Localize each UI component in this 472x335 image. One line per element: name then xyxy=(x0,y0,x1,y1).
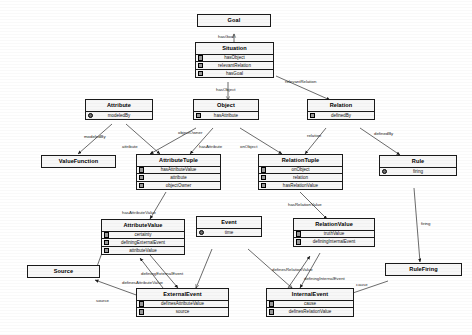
class-box-externalevent[interactable]: ExternalEvent definesAttributeValue sour… xyxy=(136,288,229,317)
attribute-list: modeledBy xyxy=(86,111,152,120)
class-title: Source xyxy=(28,266,99,277)
visibility-icon xyxy=(196,71,205,76)
edge-label-hasattribute: hasAttribute xyxy=(199,145,222,149)
class-box-internalevent[interactable]: InternalEvent cause definesRelationValue xyxy=(266,288,354,317)
visibility-icon xyxy=(102,240,111,245)
attribute-row: truthValue xyxy=(294,231,374,239)
class-box-attributevalue[interactable]: AttributeValue certainty definingExterna… xyxy=(101,219,185,255)
attribute-list: firing xyxy=(380,167,456,176)
visibility-icon xyxy=(137,309,146,314)
edge-label-definingexternalevent: definingExternalEvent xyxy=(141,272,183,276)
class-box-goal[interactable]: Goal xyxy=(197,14,271,27)
edge-label-hasobject: hasObject xyxy=(216,88,236,92)
attribute-row: objectOwner xyxy=(137,182,220,190)
visibility-icon xyxy=(137,167,146,172)
attribute-row: hasAttribute xyxy=(194,112,258,120)
edge-label-defininginternalevent: definingInternalEvent xyxy=(304,277,345,281)
visibility-icon xyxy=(194,113,203,118)
visibility-icon xyxy=(196,63,205,68)
class-box-relationtuple[interactable]: RelationTuple onObject relation hasRelat… xyxy=(258,154,343,190)
visibility-icon xyxy=(267,309,276,314)
edge-label-relevantrelation: relevantRelation xyxy=(285,80,316,84)
class-box-valuefunction[interactable]: ValueFunction xyxy=(41,155,116,168)
attribute-row: attribute xyxy=(137,174,220,182)
class-box-relationvalue[interactable]: RelationValue truthValue definingInterna… xyxy=(293,218,375,247)
attribute-row: definingExternalEvent xyxy=(102,239,184,247)
attribute-list: definesAttributeValue source xyxy=(137,300,228,316)
visibility-icon xyxy=(197,230,206,235)
visibility-icon xyxy=(308,113,317,118)
attribute-row: definesAttributeValue xyxy=(137,301,228,309)
edge-label-hasattributevalue: hasAttributeValue xyxy=(122,211,156,215)
attribute-row: definesRelationValue xyxy=(267,308,353,316)
attribute-row: firing xyxy=(380,168,456,176)
class-box-situation[interactable]: Situation hasObject relevantRelation has… xyxy=(195,42,274,78)
visibility-icon xyxy=(102,248,111,253)
attribute-row: onObject xyxy=(259,167,342,175)
visibility-icon xyxy=(267,301,276,306)
attribute-row: time xyxy=(197,229,261,237)
attribute-list: definedBy xyxy=(308,111,374,120)
visibility-icon xyxy=(294,239,303,244)
edge-label-modeledby: modeledBy xyxy=(84,135,106,139)
class-box-rule[interactable]: Rule firing xyxy=(379,155,457,176)
attribute-row: definingInternalEvent xyxy=(294,238,374,246)
visibility-icon xyxy=(259,175,268,180)
edge-label-attribute: attribute xyxy=(122,145,138,149)
class-box-relation[interactable]: Relation definedBy xyxy=(307,99,375,120)
class-title: ExternalEvent xyxy=(137,289,228,300)
class-box-attribute[interactable]: Attribute modeledBy xyxy=(85,99,153,120)
attribute-row: cause xyxy=(267,301,353,309)
attribute-list: hasAttribute xyxy=(194,111,258,120)
class-title: Object xyxy=(194,100,258,111)
visibility-icon xyxy=(137,301,146,306)
edge-label-hasrelationvalue: hasRelationValue xyxy=(288,203,322,207)
edge-label-cause: cause xyxy=(356,283,368,287)
edge-label-definesattributevalue: definesAttributeValue xyxy=(122,281,163,285)
edge-label-hasgoal: hasGoal xyxy=(218,35,234,39)
class-title: Rule xyxy=(380,156,456,167)
attribute-row: hasObject xyxy=(196,55,273,63)
attribute-row: relation xyxy=(259,174,342,182)
edge-label-source: source xyxy=(96,299,109,303)
class-box-source[interactable]: Source xyxy=(27,265,100,278)
class-title: Event xyxy=(197,217,261,228)
edge-label-definesrelationvalue: definesRelationValue xyxy=(272,268,313,272)
visibility-icon xyxy=(196,55,205,60)
class-box-object[interactable]: Object hasAttribute xyxy=(193,99,259,120)
visibility-icon xyxy=(259,183,268,188)
attribute-row: hasGoal xyxy=(196,70,273,78)
attribute-list: onObject relation hasRelationValue xyxy=(259,166,342,190)
edge-label-relation: relation xyxy=(307,134,321,138)
edge-label-onobject: onObject xyxy=(240,145,257,149)
attribute-row: hasRelationValue xyxy=(259,182,342,190)
visibility-icon xyxy=(102,232,111,237)
attribute-row: modeledBy xyxy=(86,112,152,120)
class-title: RelationValue xyxy=(294,219,374,230)
attribute-row: attributeValue xyxy=(102,247,184,255)
uml-class-diagram: Goal Situation hasObject relevantRelatio… xyxy=(0,0,472,335)
class-title: InternalEvent xyxy=(267,289,353,300)
attribute-list: truthValue definingInternalEvent xyxy=(294,230,374,246)
visibility-icon xyxy=(137,183,146,188)
attribute-row: hasAttributeValue xyxy=(137,167,220,175)
class-box-event[interactable]: Event time xyxy=(196,216,262,237)
class-title: RuleFiring xyxy=(386,264,461,275)
attribute-list: certainty definingExternalEvent attribut… xyxy=(102,231,184,255)
attribute-row: certainty xyxy=(102,232,184,240)
class-title: Relation xyxy=(308,100,374,111)
class-title: AttributeTuple xyxy=(137,155,220,166)
attribute-row: definedBy xyxy=(308,112,374,120)
attribute-list: hasObject relevantRelation hasGoal xyxy=(196,54,273,78)
visibility-icon xyxy=(380,169,389,174)
edge-label-definedby: definedBy xyxy=(374,132,393,136)
edge-label-firing: firing xyxy=(421,222,430,226)
class-title: AttributeValue xyxy=(102,220,184,231)
class-title: Situation xyxy=(196,43,273,54)
class-title: RelationTuple xyxy=(259,155,342,166)
class-title: ValueFunction xyxy=(42,156,115,167)
class-box-attributetuple[interactable]: AttributeTuple hasAttributeValue attribu… xyxy=(136,154,221,190)
visibility-icon xyxy=(294,231,303,236)
attribute-list: time xyxy=(197,228,261,237)
class-box-rulefiring[interactable]: RuleFiring xyxy=(385,263,462,276)
